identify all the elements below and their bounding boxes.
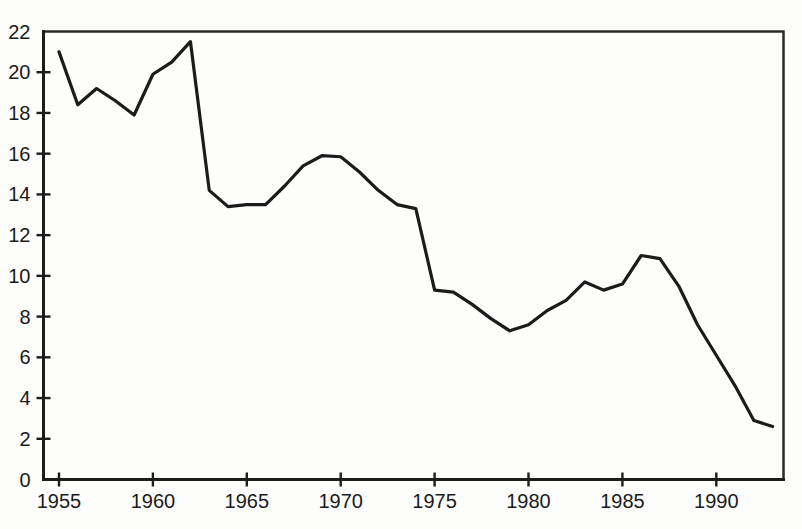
y-axis-tick-labels: 0246810121416182022 xyxy=(8,21,30,491)
chart-canvas: 0246810121416182022 19551960196519701975… xyxy=(0,0,802,529)
y-tick-label: 6 xyxy=(19,346,30,368)
y-tick-label: 10 xyxy=(8,265,30,287)
x-tick-label: 1955 xyxy=(37,490,82,512)
y-tick-label: 22 xyxy=(8,21,30,43)
x-tick-label: 1985 xyxy=(600,490,645,512)
y-tick-label: 8 xyxy=(19,306,30,328)
y-tick-label: 18 xyxy=(8,102,30,124)
y-tick-label: 2 xyxy=(19,428,30,450)
line-chart-figure: 0246810121416182022 19551960196519701975… xyxy=(0,0,802,529)
y-tick-label: 0 xyxy=(19,469,30,491)
x-tick-label: 1970 xyxy=(318,490,363,512)
x-tick-label: 1960 xyxy=(131,490,176,512)
y-tick-label: 4 xyxy=(19,387,30,409)
data-series-line xyxy=(59,42,773,427)
x-axis-tick-labels: 19551960196519701975198019851990 xyxy=(37,490,739,512)
x-tick-label: 1990 xyxy=(694,490,739,512)
y-tick-label: 12 xyxy=(8,224,30,246)
x-tick-label: 1975 xyxy=(412,490,457,512)
axis-lines xyxy=(44,32,784,480)
y-tick-label: 20 xyxy=(8,61,30,83)
plot-border xyxy=(44,32,784,480)
x-tick-label: 1980 xyxy=(506,490,551,512)
x-tick-label: 1965 xyxy=(225,490,270,512)
y-tick-label: 16 xyxy=(8,143,30,165)
plot-frame xyxy=(44,32,784,480)
y-tick-label: 14 xyxy=(8,183,30,205)
